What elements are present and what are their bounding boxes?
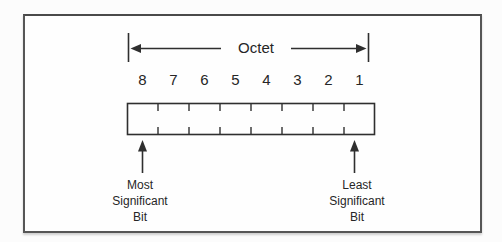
msb-arrow — [138, 140, 147, 173]
bit-number: 1 — [344, 71, 375, 89]
bit-number: 3 — [282, 71, 313, 89]
octet-box — [128, 104, 375, 135]
octet-title: Octet — [221, 40, 291, 56]
left-arrowhead-icon — [131, 44, 142, 53]
lsb-arrow — [350, 140, 359, 173]
diagram-artwork — [0, 0, 502, 242]
up-arrowhead-icon — [138, 140, 147, 152]
bit-number: 5 — [220, 71, 251, 89]
bit-number: 7 — [158, 71, 189, 89]
bit-number: 8 — [127, 71, 158, 89]
cell-ticks-top — [158, 104, 344, 111]
right-arrowhead-icon — [356, 44, 367, 53]
cell-ticks-bottom — [158, 127, 344, 134]
up-arrowhead-icon — [350, 140, 359, 152]
bit-number: 4 — [251, 71, 282, 89]
lsb-caption: Least Significant Bit — [311, 177, 403, 225]
octet-diagram: Octet 8 7 6 5 4 3 2 1 Most Significant B… — [0, 0, 502, 242]
bit-number: 2 — [313, 71, 344, 89]
msb-caption: Most Significant Bit — [94, 177, 186, 225]
bit-number: 6 — [189, 71, 220, 89]
bit-number-row: 8 7 6 5 4 3 2 1 — [127, 71, 375, 89]
